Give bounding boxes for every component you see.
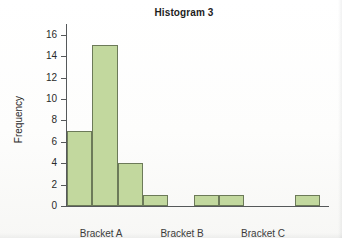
histogram-bar [219,195,244,206]
y-axis-tick-mark [61,206,67,207]
histogram-bar [67,131,92,206]
y-axis-tick-label: 16 [36,29,57,40]
y-axis-label-text: Frequency [13,89,24,151]
plot-area [67,24,320,206]
page-edge-shadow [338,0,342,238]
y-axis-tick-label: 4 [36,157,57,168]
y-axis-tick-label: 0 [36,200,57,211]
y-axis-tick-label: 8 [36,114,57,125]
histogram-chart: Histogram 3 Frequency 0246810121416 Brac… [0,0,342,238]
x-axis-tick-label: Bracket B [156,228,208,238]
y-axis-tick-label: 12 [36,72,57,83]
y-axis-tick-label: 10 [36,93,57,104]
y-axis-tick-label: 2 [36,179,57,190]
x-axis-line [67,206,329,207]
x-axis-tick-label: Bracket C [237,228,289,238]
y-axis-tick-label: 6 [36,136,57,147]
y-axis-label: Frequency [11,74,25,166]
histogram-bar [118,163,143,206]
chart-title: Histogram 3 [0,7,342,18]
x-axis-tick-label: Bracket A [75,228,127,238]
histogram-bar [194,195,219,206]
x-axis-labels: Bracket ABracket BBracket C [67,228,329,238]
histogram-bar [92,45,117,206]
y-axis-tick-label: 14 [36,50,57,61]
histogram-bar [295,195,320,206]
histogram-bar [143,195,168,206]
